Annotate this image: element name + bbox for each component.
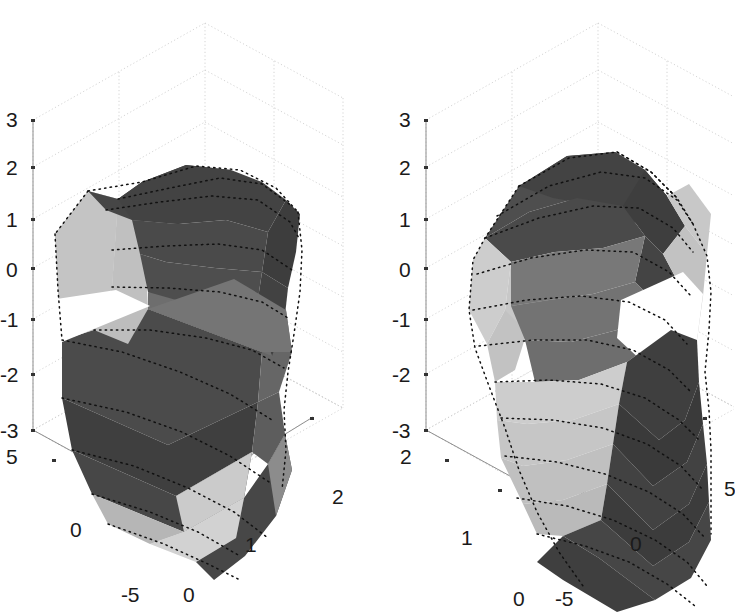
right-xtick-0: 0: [513, 588, 524, 609]
right-ztick-1: 1: [399, 209, 410, 230]
right-ztick-0: 0: [399, 259, 410, 280]
right-xtick-1: 1: [461, 527, 472, 548]
left-ytick-neg5: -5: [121, 584, 139, 605]
right-ztick-neg3: -3: [392, 420, 410, 441]
left-ztick-0: 0: [6, 259, 17, 280]
right-ztick-3: 3: [399, 109, 410, 130]
right-ztick-neg2: -2: [392, 364, 410, 385]
left-xtick-2: 2: [332, 486, 343, 507]
right-xtick-2: 2: [400, 446, 411, 467]
left-ztick-neg2: -2: [0, 364, 18, 385]
right-axes-box: [424, 23, 734, 612]
left-ztick-2: 2: [6, 157, 17, 178]
right-lower-sheet: [495, 330, 711, 612]
left-axes-box: [31, 23, 343, 586]
left-plot-graphic: [0, 0, 367, 616]
right-surface-plot[interactable]: 3 2 1 0 -1 -2 -3 2 1 0 -5 0 5: [367, 0, 734, 616]
left-ytick-0: 0: [70, 519, 81, 540]
right-plot-graphic: [367, 0, 734, 616]
left-xtick-1: 1: [245, 534, 256, 555]
right-ztick-2: 2: [399, 157, 410, 178]
left-ztick-3: 3: [6, 109, 17, 130]
right-riemann-surface: [469, 152, 711, 612]
left-surface-plot[interactable]: 3 2 1 0 -1 -2 -3 5 0 -5 0 1 2: [0, 0, 367, 616]
right-ztick-neg1: -1: [392, 309, 410, 330]
left-ytick-5: 5: [6, 446, 17, 467]
left-ztick-neg3: -3: [0, 420, 18, 441]
right-ytick-0: 0: [630, 533, 641, 554]
left-ztick-1: 1: [6, 209, 17, 230]
left-riemann-surface: [50, 165, 302, 586]
right-ytick-5: 5: [724, 478, 735, 499]
left-ztick-neg1: -1: [0, 309, 18, 330]
right-ytick-neg5: -5: [555, 588, 573, 609]
left-xtick-0: 0: [183, 584, 194, 605]
